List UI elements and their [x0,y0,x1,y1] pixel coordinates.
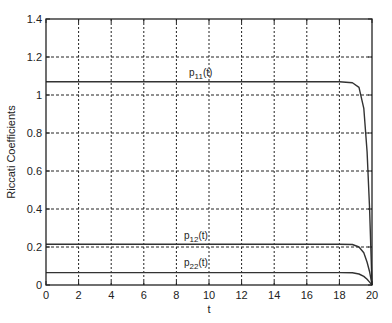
x-tick-label: 10 [203,289,215,301]
x-tick-label: 8 [173,289,179,301]
x-tick-label: 0 [43,289,49,301]
x-tick-label: 16 [301,289,313,301]
y-tick-label: 0.6 [27,165,42,177]
x-axis-ticks: 02468101214161820 [43,19,378,301]
curve-label-p12: p12(t) [184,230,208,244]
grid-lines [46,19,372,285]
x-tick-label: 12 [235,289,247,301]
x-axis-label: t [207,303,210,315]
x-tick-label: 18 [333,289,345,301]
y-axis-label: Riccati Coefficients [5,105,17,199]
y-tick-label: 0 [36,279,42,291]
x-tick-label: 14 [268,289,280,301]
y-tick-label: 1.4 [27,13,42,25]
y-tick-label: 0.2 [27,241,42,253]
y-tick-label: 0.8 [27,127,42,139]
x-tick-label: 20 [366,289,378,301]
riccati-chart: 02468101214161820 00.20.40.60.811.21.4 t… [0,0,392,323]
y-tick-label: 1 [36,89,42,101]
x-tick-label: 6 [141,289,147,301]
y-tick-label: 1.2 [27,51,42,63]
curve-label-p22: p22(t) [184,257,208,271]
x-tick-label: 4 [108,289,114,301]
x-tick-label: 2 [76,289,82,301]
y-tick-label: 0.4 [27,203,42,215]
curve-label-p11: p11(t) [189,67,212,81]
